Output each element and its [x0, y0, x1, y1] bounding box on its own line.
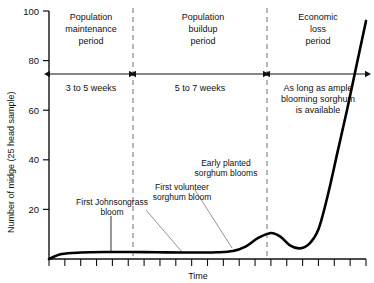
- annotation-volunteer-sorghum: First volunteer sorghum bloom: [153, 182, 212, 202]
- y-tick-label-100: 100: [23, 6, 39, 17]
- annotation-2-line-2: sorghum bloom: [153, 192, 212, 202]
- annotation-1-line-1: First Johnsongrass: [76, 197, 148, 207]
- x-axis-title: Time: [188, 271, 208, 281]
- chart-figure: 100 80 60 40 20 Number of midge (25 head…: [0, 0, 374, 283]
- annotation-2-line-1: First volunteer: [155, 182, 209, 192]
- period-1-line-1: Population: [70, 12, 113, 22]
- annotation-1-line-2: bloom: [100, 207, 123, 217]
- span-label-1: 3 to 5 weeks: [66, 83, 117, 93]
- period-1-line-2: maintenance: [65, 24, 117, 34]
- period-2-line-3: period: [190, 36, 215, 46]
- y-tick-label-80: 80: [28, 55, 39, 66]
- span-label-3-line-1: As long as ample: [283, 83, 352, 93]
- period-2-line-1: Population: [182, 12, 225, 22]
- span-label-3-line-2: blooming sorghum: [281, 94, 355, 104]
- midge-population-line-chart: 100 80 60 40 20 Number of midge (25 head…: [0, 0, 374, 283]
- period-3-line-2: loss: [310, 24, 327, 34]
- annotation-3-line-1: Early planted: [201, 158, 251, 168]
- span-label-2: 5 to 7 weeks: [175, 83, 226, 93]
- annotation-3-line-2: sorghum blooms: [195, 168, 258, 178]
- y-tick-label-60: 60: [28, 105, 39, 116]
- annotation-early-planted-sorghum: Early planted sorghum blooms: [195, 158, 258, 178]
- period-3-line-3: period: [305, 36, 330, 46]
- period-1-line-3: period: [78, 36, 103, 46]
- y-axis-title: Number of midge (25 head sample): [6, 91, 16, 233]
- period-3-line-1: Economic: [298, 12, 338, 22]
- y-tick-label-40: 40: [28, 154, 39, 165]
- period-2-line-2: buildup: [188, 24, 217, 34]
- y-tick-label-20: 20: [28, 204, 39, 215]
- span-label-3-line-3: is available: [296, 105, 341, 115]
- x-axis-ticks: [49, 259, 366, 266]
